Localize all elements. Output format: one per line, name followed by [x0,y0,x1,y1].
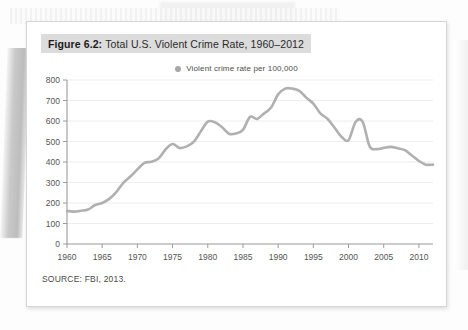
x-axis-tick-label: 1965 [93,252,112,262]
y-axis-tick-label: 500 [46,137,60,147]
x-axis-tick-label: 1980 [198,252,217,262]
x-axis-tick-label: 1990 [269,252,288,262]
y-axis-tick-label: 400 [46,157,60,167]
y-axis-tick-label: 700 [46,96,60,106]
x-axis-tick-label: 1970 [128,252,147,262]
chart-gridlines [67,80,433,224]
crime-rate-line-series [67,88,433,212]
y-axis-tick-label: 800 [46,75,60,85]
x-axis-tick-label: 1975 [163,252,182,262]
line-chart-svg: 0100200300400500600700800 19601965197019… [27,22,446,306]
x-axis-ticks: 1960196519701975198019851990199520002005… [58,244,429,262]
source-note: SOURCE: FBI, 2013. [42,274,126,284]
x-axis-tick-label: 2010 [409,252,428,262]
y-axis-tick-label: 0 [55,239,60,249]
y-axis-tick-label: 300 [46,178,60,188]
x-axis-tick-label: 2000 [339,252,358,262]
figure-card: Figure 6.2: Total U.S. Violent Crime Rat… [26,21,447,307]
x-axis-tick-label: 1995 [304,252,323,262]
chart-plot-area: 0100200300400500600700800 19601965197019… [27,22,446,306]
scan-artifact-right-edge [454,40,468,270]
x-axis-tick-label: 1985 [234,252,253,262]
y-axis-tick-label: 200 [46,198,60,208]
y-axis-ticks: 0100200300400500600700800 [46,75,67,249]
x-axis-tick-label: 2005 [374,252,393,262]
y-axis-tick-label: 600 [46,116,60,126]
y-axis-tick-label: 100 [46,219,60,229]
x-axis-tick-label: 1960 [58,252,77,262]
